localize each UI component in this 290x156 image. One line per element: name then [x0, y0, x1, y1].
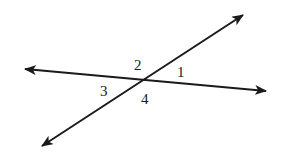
angle-label-4: 4: [141, 91, 149, 107]
angle-label-2: 2: [134, 57, 142, 73]
intersecting-lines-diagram: 1 2 3 4: [0, 0, 290, 156]
diagonal-line: [42, 15, 243, 146]
angle-label-3: 3: [100, 83, 108, 99]
horizontal-line: [25, 69, 266, 91]
angle-label-1: 1: [177, 64, 185, 80]
